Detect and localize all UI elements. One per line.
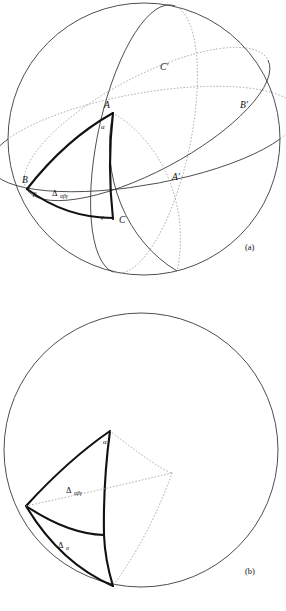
label-angle-alpha-a: α xyxy=(101,123,105,131)
label-vertex-C: C xyxy=(119,215,126,225)
svg-text:Δ: Δ xyxy=(52,188,58,198)
great-circle-equator-front-a xyxy=(0,139,280,192)
lune-back-arc-top xyxy=(110,431,172,473)
label-region-triangle-b: Δ αβγ xyxy=(66,485,83,496)
label-angle-gamma-a: γ xyxy=(101,213,104,221)
svg-text:Δ: Δ xyxy=(58,540,64,550)
sphere-outline-b xyxy=(4,313,278,587)
svg-text:αβγ: αβγ xyxy=(74,490,83,496)
caption-figure-b: (b) xyxy=(245,566,255,576)
label-vertex-B: B xyxy=(22,175,28,185)
label-region-triangle-a: Δ αβγ xyxy=(52,188,69,199)
lune-edge-AC-extension xyxy=(104,535,113,586)
label-vertex-A-prime: A′ xyxy=(171,172,181,182)
svg-text:Δ: Δ xyxy=(66,485,72,495)
great-circle-ab-a xyxy=(110,113,181,271)
triangle-edge-AC xyxy=(110,113,113,219)
lune-hidden-arcs-b xyxy=(26,431,172,586)
lune-back-arc-equator xyxy=(26,473,172,506)
svg-text:αβγ: αβγ xyxy=(60,193,69,199)
great-circle-meridian-back-a xyxy=(113,6,197,273)
great-circle-oblique-back-a xyxy=(24,47,268,188)
great-circle-ab-front-a xyxy=(110,113,177,271)
triangle-edge-AC-b xyxy=(104,431,110,535)
great-circle-oblique-front-a xyxy=(26,60,270,201)
label-vertex-A: A xyxy=(103,100,110,110)
svg-text:α: α xyxy=(66,545,70,551)
caption-figure-a: (a) xyxy=(245,242,255,252)
great-circle-ab-back-a xyxy=(113,113,180,271)
label-vertex-B-prime: B′ xyxy=(240,100,249,110)
figure-a: A B C α β γ A′ B′ C′ Δ αβγ (a) xyxy=(0,0,286,300)
great-circle-oblique-a xyxy=(24,47,270,200)
label-region-lune-b: Δ α xyxy=(58,540,70,551)
figure-page: A B C α β γ A′ B′ C′ Δ αβγ (a) xyxy=(0,0,286,611)
lune-alpha-b xyxy=(26,506,113,586)
lune-edge-BC-extension xyxy=(26,506,113,586)
figure-b: α Δ αβγ Δ α (b) xyxy=(0,300,286,611)
label-vertex-C-prime: C′ xyxy=(160,62,169,72)
great-circle-meridian-front-a xyxy=(91,5,175,272)
lune-back-arc-bottom xyxy=(113,473,172,586)
spherical-triangle-abc-b xyxy=(26,431,110,535)
triangle-edge-BC-b xyxy=(26,506,104,535)
label-angle-beta-a: β xyxy=(32,190,37,198)
label-angle-alpha-b: α xyxy=(103,438,107,446)
